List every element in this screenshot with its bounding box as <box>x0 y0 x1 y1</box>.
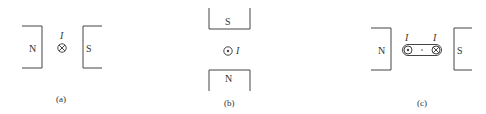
panel-a: N I S (a) <box>22 26 102 104</box>
coil-right-current-label: I <box>432 32 437 43</box>
coil-axis-dot <box>421 49 423 51</box>
caption-b: (b) <box>224 98 235 108</box>
caption-a: (a) <box>56 94 66 104</box>
current-label-b: I <box>235 45 240 56</box>
panel-b: S I N (b) <box>209 8 250 108</box>
south-pole-label-b: S <box>225 16 231 27</box>
north-pole-label-b: N <box>225 73 232 84</box>
current-label-a: I <box>59 30 64 41</box>
panel-c: N I I S (c) <box>371 28 472 108</box>
north-pole-label-c: N <box>378 45 385 56</box>
current-loop <box>403 45 442 56</box>
south-pole-label-c: S <box>457 45 463 56</box>
coil-into-page-icon <box>432 46 440 54</box>
caption-c: (c) <box>417 98 427 108</box>
magnetic-field-diagrams: N I S (a) S I N (b) N <box>0 0 486 114</box>
north-pole-label-a: N <box>29 43 36 54</box>
coil-left-current-label: I <box>404 32 409 43</box>
south-pole-label-a: S <box>86 43 92 54</box>
coil-out-of-page-icon <box>404 46 412 54</box>
current-out-of-page-icon <box>224 47 232 55</box>
current-into-page-icon <box>58 44 66 52</box>
